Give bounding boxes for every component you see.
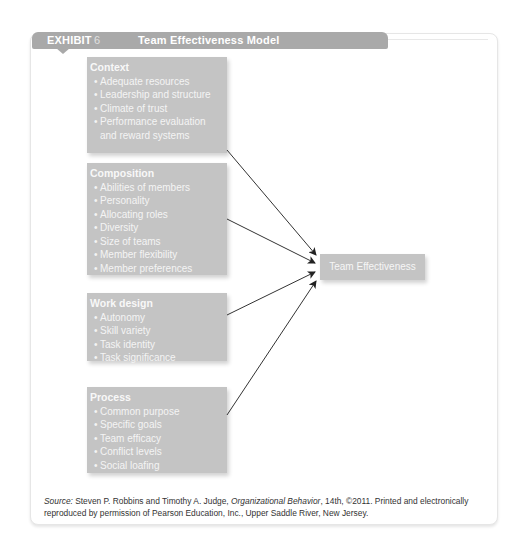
arrow-context xyxy=(227,150,316,255)
team-effectiveness-box: Team Effectiveness xyxy=(320,254,425,280)
arrow-process xyxy=(227,281,316,415)
arrow-composition xyxy=(227,219,315,263)
source-book-title: Organizational Behavior xyxy=(231,496,320,506)
source-citation: Source: Steven P. Robbins and Timothy A.… xyxy=(44,495,494,519)
connector-arrows xyxy=(0,0,525,552)
source-prefix: Source: xyxy=(44,496,73,506)
arrow-work-design xyxy=(227,272,315,315)
source-authors: Steven P. Robbins and Timothy A. Judge, xyxy=(73,496,231,506)
